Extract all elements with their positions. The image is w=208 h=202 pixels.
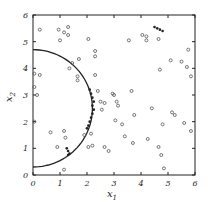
x-axis-label-sub: 1	[113, 194, 117, 202]
open-point	[67, 34, 70, 37]
y-axis-label-sub: 2	[9, 91, 17, 97]
open-point	[99, 100, 102, 103]
open-point	[150, 107, 153, 110]
scatter-chart: 0123456 0123456 x1 x2	[0, 0, 208, 202]
filled-point	[159, 28, 162, 31]
y-axis-ticks: 0123456	[22, 11, 195, 180]
filled-point	[91, 112, 94, 115]
open-point	[63, 31, 66, 34]
open-point	[162, 167, 165, 170]
open-point	[183, 122, 186, 125]
open-point	[96, 90, 99, 93]
x-tick-label: 5	[165, 179, 170, 188]
data-points	[33, 26, 193, 172]
x-tick-label: 3	[111, 179, 116, 188]
y-tick-label: 1	[23, 144, 28, 153]
filled-point	[91, 96, 94, 99]
open-point	[68, 67, 71, 70]
filled-point	[90, 116, 93, 119]
open-point	[107, 150, 110, 153]
open-point	[127, 39, 130, 42]
filled-point	[156, 27, 159, 30]
filled-point	[153, 26, 156, 29]
x-axis-label: x1	[107, 188, 117, 202]
open-point	[87, 38, 90, 41]
filled-point	[87, 124, 90, 127]
y-tick-label: 4	[22, 64, 28, 73]
y-tick-label: 3	[23, 91, 28, 100]
open-point	[161, 123, 164, 126]
y-tick-label: 6	[23, 11, 28, 20]
open-point	[185, 66, 188, 69]
x-tick-label: 1	[57, 179, 62, 188]
open-point	[90, 132, 93, 135]
open-point	[123, 135, 126, 138]
open-point	[145, 35, 148, 38]
open-point	[91, 144, 94, 147]
open-point	[100, 108, 103, 111]
open-point	[114, 119, 117, 122]
x-tick-label: 6	[192, 179, 197, 188]
x-tick-label: 0	[30, 179, 35, 188]
open-point	[64, 136, 67, 139]
decision-boundary-curve	[33, 50, 92, 167]
filled-point	[67, 150, 70, 153]
open-point	[87, 146, 90, 149]
open-point	[117, 104, 120, 107]
filled-point	[92, 108, 95, 111]
open-point	[189, 75, 192, 78]
open-point	[157, 38, 160, 41]
open-point	[94, 50, 97, 53]
filled-point	[65, 147, 68, 150]
open-point	[169, 59, 172, 62]
open-point	[103, 146, 106, 149]
x-tick-label: 2	[83, 179, 89, 188]
open-point	[160, 154, 163, 157]
y-axis-label: x2	[3, 91, 17, 102]
open-point	[67, 26, 70, 29]
filled-point	[88, 88, 91, 91]
filled-point	[92, 100, 95, 103]
y-tick-label: 5	[23, 38, 28, 47]
open-point	[180, 60, 183, 63]
open-point	[94, 74, 97, 77]
open-point	[49, 131, 52, 134]
y-tick-label: 2	[22, 118, 28, 127]
open-point	[57, 28, 60, 31]
open-point	[141, 34, 144, 37]
filled-point	[161, 30, 164, 33]
open-point	[187, 48, 190, 51]
open-point	[77, 58, 80, 61]
open-point	[94, 55, 97, 58]
open-point	[38, 74, 41, 77]
open-point	[146, 138, 149, 141]
open-point	[63, 130, 66, 133]
open-point	[56, 146, 59, 149]
open-point	[121, 123, 124, 126]
y-tick-label: 0	[23, 171, 28, 180]
open-point	[131, 142, 134, 145]
filled-point	[88, 120, 91, 123]
filled-point	[91, 104, 94, 107]
open-point	[133, 114, 136, 117]
open-point	[115, 100, 118, 103]
open-point	[59, 39, 62, 42]
open-point	[38, 28, 41, 31]
filled-point	[90, 92, 93, 95]
open-point	[189, 130, 192, 133]
filled-point	[86, 127, 89, 130]
open-point	[145, 39, 148, 42]
x-tick-label: 4	[137, 179, 143, 188]
open-point	[130, 90, 133, 93]
open-point	[63, 168, 66, 171]
open-point	[76, 79, 79, 82]
open-point	[173, 114, 176, 117]
open-point	[158, 68, 161, 71]
open-point	[157, 146, 160, 149]
boundary-arc	[33, 50, 92, 167]
open-point	[103, 102, 106, 105]
open-point	[76, 75, 79, 78]
filled-point	[67, 154, 70, 157]
open-point	[171, 111, 174, 114]
